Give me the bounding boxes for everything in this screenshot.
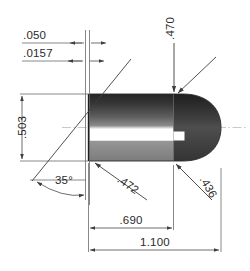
dimension-base-diameter: .503 <box>16 96 28 159</box>
label-nose-flat: .0157 <box>23 47 53 59</box>
dimension-bearing-diameter: .472 <box>95 163 147 200</box>
technical-drawing-canvas: .050 .0157 .470 .503 35° .4 <box>0 0 250 271</box>
label-base-diameter: .503 <box>16 116 28 139</box>
dimension-nose-flat: .0157 <box>23 47 104 61</box>
label-overall-length: 1.100 <box>140 236 170 248</box>
dimension-overall-length: 1.100 <box>90 236 219 250</box>
label-bearing-length: .690 <box>119 214 142 226</box>
label-nose-diameter: .436 <box>197 174 219 200</box>
label-taper-angle: 35° <box>55 174 73 186</box>
label-meplat-step: .050 <box>23 29 46 41</box>
bullet-body-shape <box>89 94 222 161</box>
dimension-meplat-step: .050 <box>23 29 106 43</box>
dimension-bearing-length: .690 <box>90 214 172 228</box>
bullet-dimension-drawing: .050 .0157 .470 .503 35° .4 <box>0 0 250 271</box>
dimension-ogive-start: .470 <box>164 17 176 92</box>
label-ogive-start: .470 <box>164 17 176 40</box>
